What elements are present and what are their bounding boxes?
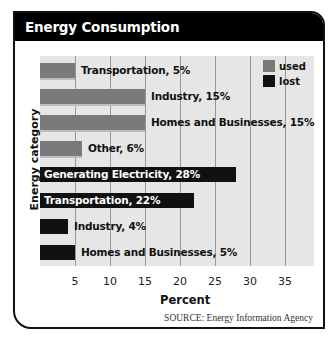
chart-frame: Energy Consumption used lost Transportat… [13, 11, 325, 329]
bar-label: Transportation, 5% [81, 63, 190, 78]
bar-used [40, 89, 145, 104]
gridline [180, 56, 181, 266]
x-tick-label: 20 [173, 275, 187, 288]
gridline [145, 56, 146, 266]
chart-title: Energy Consumption [15, 13, 323, 41]
x-tick-label: 35 [278, 275, 292, 288]
plot-area: used lost Transportation, 5%Industry, 15… [40, 56, 314, 266]
source-note: SOURCE: Energy Information Agency [164, 313, 313, 323]
gridline [215, 56, 216, 266]
legend-swatch-used [263, 60, 275, 72]
gridline [110, 56, 111, 266]
gridline [75, 56, 76, 266]
x-tick-label: 15 [138, 275, 152, 288]
bar-label: Homes and Businesses, 5% [81, 245, 237, 260]
bar-lost [40, 219, 68, 234]
bar-label: Generating Electricity, 28% [44, 167, 200, 182]
legend-label-lost: lost [279, 76, 300, 87]
legend-label-used: used [279, 61, 306, 72]
y-axis-label: Energy category [28, 105, 41, 215]
x-tick-label: 30 [243, 275, 257, 288]
bar-used [40, 63, 75, 78]
bar-label: Transportation, 22% [44, 193, 160, 208]
x-tick-label: 10 [103, 275, 117, 288]
bar-label: Homes and Businesses, 15% [151, 115, 314, 130]
bar-used [40, 115, 145, 130]
gridline [285, 56, 286, 266]
x-axis-label: Percent [160, 293, 210, 307]
bar-label: Other, 6% [88, 141, 144, 156]
bar-lost [40, 245, 75, 260]
bar-used [40, 141, 82, 156]
x-tick-label: 25 [208, 275, 222, 288]
bar-label: Industry, 15% [151, 89, 230, 104]
legend-swatch-lost [263, 75, 275, 87]
gridline [250, 56, 251, 266]
x-tick-label: 5 [72, 275, 79, 288]
bar-label: Industry, 4% [74, 219, 146, 234]
